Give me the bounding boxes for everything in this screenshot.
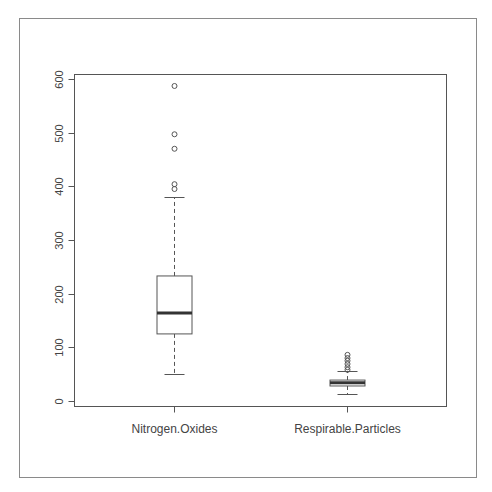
x-category-label: Respirable.Particles — [294, 422, 401, 436]
boxplot-chart: 0100200300400500600 Nitrogen.OxidesRespi… — [0, 0, 492, 492]
plot-area — [75, 75, 447, 407]
y-tick-label: 400 — [53, 177, 65, 195]
box-group — [157, 83, 192, 374]
outlier-point — [172, 132, 177, 137]
y-tick-label: 200 — [53, 285, 65, 303]
outlier-point — [345, 352, 350, 357]
boxes — [157, 83, 365, 394]
outlier-point — [172, 146, 177, 151]
y-tick-label: 300 — [53, 231, 65, 249]
y-tick-label: 0 — [53, 398, 65, 404]
outlier-point — [172, 182, 177, 187]
y-tick-label: 100 — [53, 338, 65, 356]
y-tick-label: 500 — [53, 124, 65, 142]
y-axis: 0100200300400500600 — [53, 70, 75, 404]
outlier-point — [172, 83, 177, 88]
x-category-label: Nitrogen.Oxides — [131, 422, 217, 436]
box-group — [330, 352, 365, 394]
outlier-point — [172, 187, 177, 192]
iqr-box — [157, 276, 192, 334]
outer-frame — [20, 19, 477, 478]
y-tick-label: 600 — [53, 70, 65, 88]
x-axis: Nitrogen.OxidesRespirable.Particles — [131, 407, 400, 437]
